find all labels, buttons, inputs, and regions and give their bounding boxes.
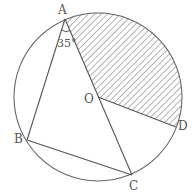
label-D: D: [178, 119, 188, 133]
shaded-sector: [65, 12, 182, 127]
label-O: O: [84, 92, 94, 106]
label-C: C: [129, 179, 138, 193]
segment-BC: [27, 140, 132, 175]
angle-label: 35°: [57, 37, 77, 50]
label-A: A: [57, 3, 67, 17]
geometry-diagram: A B C D O 35°: [0, 0, 195, 195]
label-B: B: [14, 132, 23, 146]
angle-arc-A: [62, 30, 71, 32]
